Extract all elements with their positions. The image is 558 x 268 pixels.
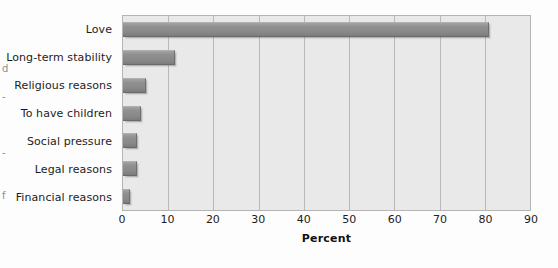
horizontal-bar-chart: d - - f LoveLong-term stabilityReligious… bbox=[0, 0, 558, 268]
category-axis-labels: LoveLong-term stabilityReligious reasons… bbox=[12, 15, 117, 211]
x-axis-tick-label: 80 bbox=[479, 213, 493, 226]
bar bbox=[123, 78, 146, 93]
bar-row bbox=[123, 99, 530, 127]
margin-scrap-glyph: f bbox=[2, 191, 6, 201]
margin-scrap-glyph: - bbox=[2, 92, 6, 102]
margin-scrap-glyph: d bbox=[2, 64, 8, 74]
bar-row bbox=[123, 127, 530, 155]
bar bbox=[123, 161, 137, 176]
x-axis-tick-label: 50 bbox=[342, 213, 356, 226]
category-label: Love bbox=[12, 15, 117, 43]
bar-row bbox=[123, 44, 530, 72]
bar-row bbox=[123, 182, 530, 210]
plot-area bbox=[122, 15, 531, 211]
category-label: Social pressure bbox=[12, 127, 117, 155]
x-axis-tick-label: 20 bbox=[206, 213, 220, 226]
x-axis-tick-label: 0 bbox=[119, 213, 126, 226]
x-axis-tick-label: 40 bbox=[297, 213, 311, 226]
bar bbox=[123, 106, 141, 121]
category-label: Legal reasons bbox=[12, 155, 117, 183]
bar bbox=[123, 133, 137, 148]
x-axis-tick-label: 10 bbox=[160, 213, 174, 226]
category-label: Financial reasons bbox=[12, 183, 117, 211]
category-label: To have children bbox=[12, 99, 117, 127]
bar-row bbox=[123, 16, 530, 44]
x-axis-tick-labels: 0102030405060708090 bbox=[122, 213, 531, 229]
bar bbox=[123, 189, 130, 204]
x-axis-title: Percent bbox=[122, 232, 531, 245]
margin-scrap-glyph: - bbox=[2, 148, 6, 158]
x-axis-tick-label: 70 bbox=[433, 213, 447, 226]
bar-row bbox=[123, 71, 530, 99]
bars-layer bbox=[123, 16, 530, 210]
bar bbox=[123, 50, 175, 65]
category-label: Religious reasons bbox=[12, 71, 117, 99]
bar bbox=[123, 22, 489, 37]
category-label: Long-term stability bbox=[12, 43, 117, 71]
x-axis-tick-label: 30 bbox=[251, 213, 265, 226]
bar-row bbox=[123, 155, 530, 183]
x-axis-tick-label: 60 bbox=[388, 213, 402, 226]
x-axis-tick-label: 90 bbox=[524, 213, 538, 226]
